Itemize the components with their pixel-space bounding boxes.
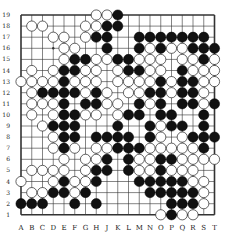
black-stone	[91, 99, 101, 109]
white-stone	[70, 77, 80, 87]
row-label: 1	[0, 211, 10, 218]
black-stone	[123, 54, 133, 64]
black-stone	[91, 32, 101, 42]
black-stone	[188, 32, 198, 42]
row-label: 15	[0, 55, 10, 62]
column-label: O	[156, 224, 166, 232]
column-label: R	[188, 224, 198, 232]
column-label: T	[210, 224, 220, 232]
white-stone	[156, 54, 166, 64]
black-stone	[199, 32, 209, 42]
white-stone	[102, 143, 112, 153]
black-stone	[91, 165, 101, 175]
row-label: 12	[0, 89, 10, 96]
white-stone	[113, 99, 123, 109]
white-stone	[145, 154, 155, 164]
white-stone	[91, 21, 101, 31]
black-stone	[156, 88, 166, 98]
white-stone	[37, 188, 47, 198]
black-stone	[134, 143, 144, 153]
row-label: 13	[0, 78, 10, 85]
black-stone	[102, 132, 112, 142]
black-stone	[123, 165, 133, 175]
black-stone	[177, 199, 187, 209]
white-stone	[70, 43, 80, 53]
white-stone	[199, 154, 209, 164]
black-stone	[80, 54, 90, 64]
column-label: M	[134, 224, 144, 232]
black-stone	[134, 32, 144, 42]
black-stone	[70, 132, 80, 142]
black-stone	[188, 199, 198, 209]
black-stone	[199, 121, 209, 131]
black-stone	[156, 165, 166, 175]
white-stone	[91, 54, 101, 64]
white-stone	[102, 54, 112, 64]
black-stone	[102, 154, 112, 164]
white-stone	[145, 165, 155, 175]
row-label: 3	[0, 189, 10, 196]
white-stone	[177, 165, 187, 175]
white-stone	[113, 77, 123, 87]
black-stone	[156, 43, 166, 53]
black-stone	[177, 176, 187, 186]
black-stone	[166, 154, 176, 164]
white-stone	[166, 143, 176, 153]
black-stone	[156, 176, 166, 186]
black-stone	[145, 32, 155, 42]
white-stone	[145, 65, 155, 75]
column-label: J	[102, 224, 112, 232]
white-stone	[134, 154, 144, 164]
white-stone	[123, 88, 133, 98]
black-stone	[59, 65, 69, 75]
black-stone	[145, 88, 155, 98]
white-stone	[27, 88, 37, 98]
black-stone	[166, 32, 176, 42]
white-stone	[199, 65, 209, 75]
black-stone	[156, 77, 166, 87]
white-stone	[70, 143, 80, 153]
white-stone	[16, 77, 26, 87]
black-stone	[188, 132, 198, 142]
black-stone	[209, 99, 219, 109]
white-stone	[80, 176, 90, 186]
white-stone	[27, 165, 37, 175]
white-stone	[27, 77, 37, 87]
black-stone	[59, 132, 69, 142]
black-stone	[59, 176, 69, 186]
black-stone	[91, 88, 101, 98]
black-stone	[59, 121, 69, 131]
black-stone	[166, 110, 176, 120]
black-stone	[102, 43, 112, 53]
column-label: C	[38, 224, 48, 232]
row-label: 17	[0, 33, 10, 40]
black-stone	[166, 188, 176, 198]
black-stone	[188, 99, 198, 109]
white-stone	[188, 165, 198, 175]
row-label: 5	[0, 166, 10, 173]
white-stone	[70, 188, 80, 198]
white-stone	[37, 21, 47, 31]
white-stone	[156, 210, 166, 220]
column-label: E	[59, 224, 69, 232]
white-stone	[145, 54, 155, 64]
column-label: Q	[177, 224, 187, 232]
white-stone	[91, 10, 101, 20]
white-stone	[27, 21, 37, 31]
white-stone	[102, 99, 112, 109]
white-stone	[199, 188, 209, 198]
black-stone	[91, 176, 101, 186]
white-stone	[37, 121, 47, 131]
black-stone	[59, 88, 69, 98]
white-stone	[145, 77, 155, 87]
row-label: 16	[0, 44, 10, 51]
black-stone	[16, 199, 26, 209]
row-label: 9	[0, 122, 10, 129]
white-stone	[37, 99, 47, 109]
black-stone	[113, 143, 123, 153]
row-label: 14	[0, 67, 10, 74]
white-stone	[113, 110, 123, 120]
black-stone	[145, 121, 155, 131]
white-stone	[188, 176, 198, 186]
white-stone	[16, 176, 26, 186]
